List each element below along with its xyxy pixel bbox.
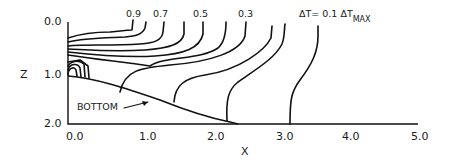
x-tick-1: 1.0 [139, 130, 157, 143]
contour-0.9 [68, 20, 133, 38]
contour-label-0.9: 0.9 [126, 8, 141, 19]
x-tick-2: 2.0 [207, 130, 225, 143]
z-axis-title: Z [20, 68, 28, 81]
contour-label-0.5: 0.5 [193, 8, 208, 19]
bottom-label: BOTTOM [77, 101, 118, 112]
contour-0.1 [290, 26, 318, 124]
x-axis-title: X [241, 145, 249, 158]
contour-label-0.7: 0.7 [153, 8, 168, 19]
contour-0.2 [174, 26, 272, 102]
z-tick-2: 2.0 [44, 117, 62, 130]
contour-label-0.3: 0.3 [238, 8, 253, 19]
x-tick-5: 5.0 [411, 130, 429, 143]
contour-0.2b [227, 24, 285, 121]
contour-corner-2 [68, 64, 81, 77]
x-tick-0: 0.0 [66, 130, 84, 143]
bottom-curve [68, 76, 238, 124]
z-tick-0: 0.0 [44, 15, 62, 28]
x-tick-4: 4.0 [342, 130, 360, 143]
contour-plot: 0.9 0.7 0.5 0.3 ΔT= 0.1 ΔTMAX BOTTOM Z 0… [0, 0, 450, 160]
z-tick-1: 1.0 [44, 68, 62, 81]
delta-t-label: ΔT= 0.1 ΔTMAX [299, 8, 371, 24]
x-tick-3: 3.0 [276, 130, 294, 143]
temperature-contour-figure: 0.9 0.7 0.5 0.3 ΔT= 0.1 ΔTMAX BOTTOM Z 0… [0, 0, 450, 160]
contour-corner-1 [68, 68, 77, 76]
